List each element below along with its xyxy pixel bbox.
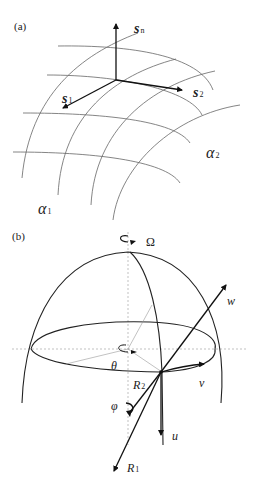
v-label: v (199, 376, 205, 390)
w-label: w (227, 294, 235, 308)
phi-arrowhead-icon (126, 410, 132, 417)
radius-line-back (128, 305, 152, 349)
R2-label: R2 (132, 378, 145, 392)
alpha1-grid-lines (22, 33, 240, 220)
v-arrow (161, 364, 204, 372)
panel-b: (b) Ω θ w v u (12, 230, 248, 475)
meridian-line (130, 252, 163, 445)
s2-label: s2 (192, 85, 203, 100)
alpha2-label: α2 (206, 144, 219, 161)
rotation-arrowhead-icon (130, 240, 136, 245)
panel-a-label: (a) (14, 20, 27, 33)
w-arrow (161, 285, 226, 372)
panel-b-label: (b) (12, 230, 25, 243)
latitude-ellipse-front (31, 349, 215, 372)
s2-arrow (116, 80, 182, 90)
panel-a: (a) sn s1 s2 α2 α1 (13, 20, 240, 220)
phi-label: φ (111, 399, 118, 413)
R1-label: R1 (126, 461, 139, 475)
radius-line-left (66, 349, 128, 364)
u-label: u (172, 429, 178, 443)
omega-label: Ω (146, 235, 155, 249)
alpha1-label: α1 (38, 200, 51, 217)
rotation-arrow-icon (121, 236, 129, 242)
alpha2-grid-lines (13, 46, 213, 183)
s1-label: s1 (61, 91, 72, 106)
theta-rotation-icon (119, 345, 128, 352)
vector-arrows (63, 24, 182, 108)
figure: (a) sn s1 s2 α2 α1 (b) (0, 0, 260, 494)
sn-label: sn (133, 21, 144, 36)
theta-label: θ (111, 359, 117, 373)
